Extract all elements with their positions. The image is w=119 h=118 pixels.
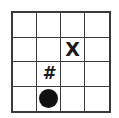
cell-r0-c2[interactable]	[61, 13, 85, 38]
cell-r1-c1[interactable]	[37, 38, 61, 63]
cell-r1-c3[interactable]	[85, 38, 109, 63]
cell-r0-c1[interactable]	[37, 13, 61, 38]
game-board: X #	[11, 11, 111, 113]
cell-r3-c2[interactable]	[61, 87, 85, 112]
cell-r0-c3[interactable]	[85, 13, 109, 38]
cell-r0-c0[interactable]	[13, 13, 37, 38]
filled-circle-icon	[39, 89, 58, 108]
cell-r3-c0[interactable]	[13, 87, 37, 112]
hash-mark: #	[43, 65, 55, 82]
cell-r2-c1[interactable]: #	[37, 62, 61, 87]
x-mark: X	[65, 40, 80, 59]
cell-r3-c3[interactable]	[85, 87, 109, 112]
cell-r1-c0[interactable]	[13, 38, 37, 63]
cell-r3-c1[interactable]	[37, 87, 61, 112]
cell-r2-c0[interactable]	[13, 62, 37, 87]
cell-r1-c2[interactable]: X	[61, 38, 85, 63]
cell-r2-c3[interactable]	[85, 62, 109, 87]
cell-r2-c2[interactable]	[61, 62, 85, 87]
